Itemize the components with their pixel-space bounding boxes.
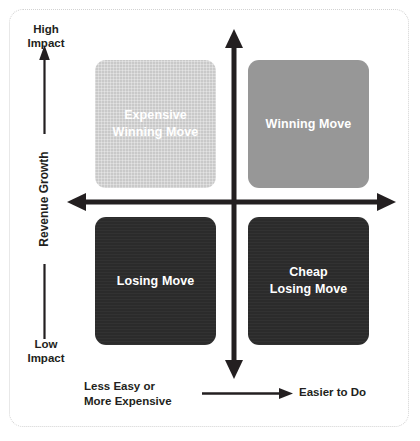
axis-label-high-impact: High Impact bbox=[7, 22, 85, 51]
axis-label-low-impact: Low Impact bbox=[7, 337, 85, 366]
quadrant-expensive-winning-move[interactable]: Expensive Winning Move bbox=[95, 60, 216, 188]
quadrant-cheap-losing-move[interactable]: Cheap Losing Move bbox=[248, 217, 369, 345]
quadrant-label-expensive-winning-move: Expensive Winning Move bbox=[113, 107, 199, 141]
axis-title-revenue-growth: Revenue Growth bbox=[35, 134, 53, 264]
quadrant-losing-move[interactable]: Losing Move bbox=[95, 217, 216, 345]
quadrant-matrix-diagram: Expensive Winning Move Winning Move Losi… bbox=[0, 0, 420, 441]
quadrant-label-losing-move: Losing Move bbox=[117, 273, 195, 290]
axis-label-less-easy-more-expensive: Less Easy or More Expensive bbox=[84, 379, 204, 409]
quadrant-winning-move[interactable]: Winning Move bbox=[248, 60, 369, 188]
quadrant-label-winning-move: Winning Move bbox=[266, 116, 352, 133]
quadrant-label-cheap-losing-move: Cheap Losing Move bbox=[270, 264, 348, 298]
axis-label-easier-to-do: Easier to Do bbox=[299, 386, 409, 398]
